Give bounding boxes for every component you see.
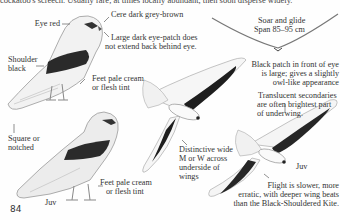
label-soar-2: Span 85–95 cm bbox=[254, 25, 305, 34]
label-cere: Cere dark grey-brown bbox=[111, 10, 183, 19]
label-wings-4: wings bbox=[179, 172, 199, 181]
label-feet-juv-2: or flesh tint bbox=[106, 187, 144, 196]
label-flight-note-2: erratic, with deeper wing beats bbox=[200, 190, 339, 199]
label-soar-1: Soar and glide bbox=[258, 16, 305, 25]
page-number: 84 bbox=[10, 204, 21, 214]
label-eye-patch-2: not extend back behind eye. bbox=[105, 42, 197, 51]
label-secondaries-1: Translucent secondaries bbox=[258, 91, 337, 100]
label-black-patch-3: owl-like appearance bbox=[240, 78, 339, 87]
label-tail-2: notched bbox=[8, 143, 34, 152]
label-feet-juv-1: Feet pale cream bbox=[100, 178, 152, 187]
label-shoulder-1: Shoulder bbox=[8, 55, 38, 64]
label-black-patch-1: Black patch in front of eye bbox=[240, 60, 339, 69]
label-black-patch-2: is large; gives a slightly bbox=[240, 69, 339, 78]
label-juv-flight: Juv bbox=[296, 162, 307, 171]
label-wings-3: underside of bbox=[179, 163, 220, 172]
label-feet-adult-1: Feet pale cream bbox=[92, 74, 144, 83]
label-tail-1: Square or bbox=[8, 134, 40, 143]
label-eye: Eye red bbox=[22, 19, 60, 28]
label-flight-note-1: Flight is slower, more bbox=[200, 181, 339, 190]
label-secondaries-2: are often brightest part bbox=[257, 100, 331, 109]
label-secondaries-3: of underwing. bbox=[257, 109, 303, 118]
label-wings-1: Distinctive wide bbox=[179, 145, 233, 154]
label-wings-2: M or W across bbox=[179, 154, 227, 163]
label-shoulder-2: black bbox=[8, 64, 26, 73]
label-juv-perched: Juv bbox=[45, 198, 56, 207]
field-guide-page: cockatoo's screech. Usually rare, at tim… bbox=[0, 0, 340, 220]
label-flight-note-3: than the Black-Shouldered Kite. bbox=[200, 199, 339, 208]
label-eye-patch-1: Large dark eye-patch does bbox=[111, 33, 197, 42]
label-feet-adult-2: or flesh tint bbox=[92, 83, 130, 92]
